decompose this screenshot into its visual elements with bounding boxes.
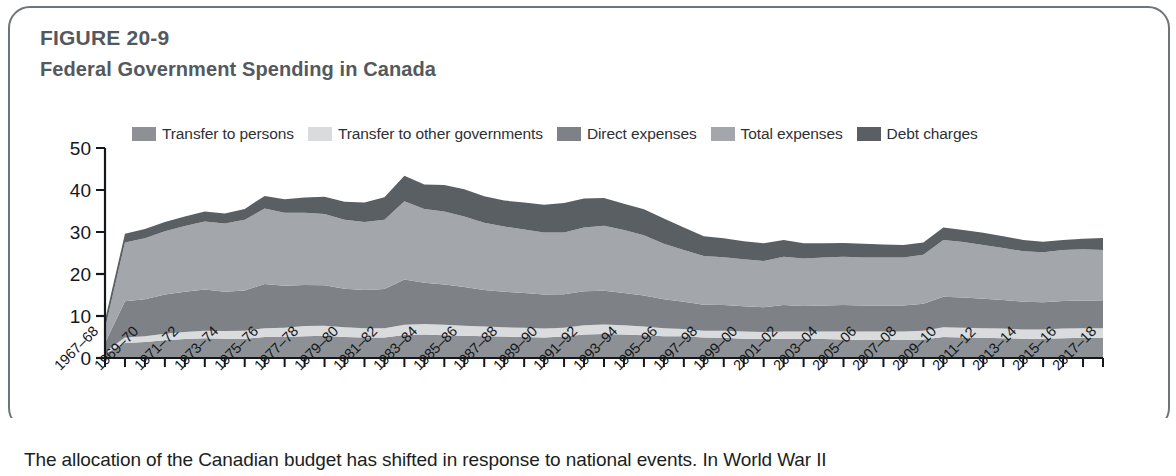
y-axis-tick-label: 30 (70, 222, 91, 243)
figure-panel: FIGURE 20-9 Federal Government Spending … (8, 6, 1170, 430)
figure-caption: The allocation of the Canadian budget ha… (24, 449, 1164, 471)
chart-svg: 01020304050 (50, 120, 1140, 370)
stacked-area-chart: 01020304050 (50, 120, 1140, 370)
y-axis-tick-label: 50 (70, 138, 91, 159)
y-axis-tick-label: 10 (70, 306, 91, 327)
y-axis-tick-label: 40 (70, 180, 91, 201)
area-series-group (105, 176, 1103, 358)
figure-page: FIGURE 20-9 Federal Government Spending … (0, 0, 1176, 476)
panel-bottom-mask (0, 418, 1176, 442)
y-axis-tick-labels: 01020304050 (70, 138, 91, 369)
y-axis-tick-label: 20 (70, 264, 91, 285)
figure-number-label: FIGURE 20-9 (40, 26, 169, 50)
figure-title: Federal Government Spending in Canada (40, 58, 436, 81)
y-axis-tick-label: 0 (80, 348, 91, 369)
